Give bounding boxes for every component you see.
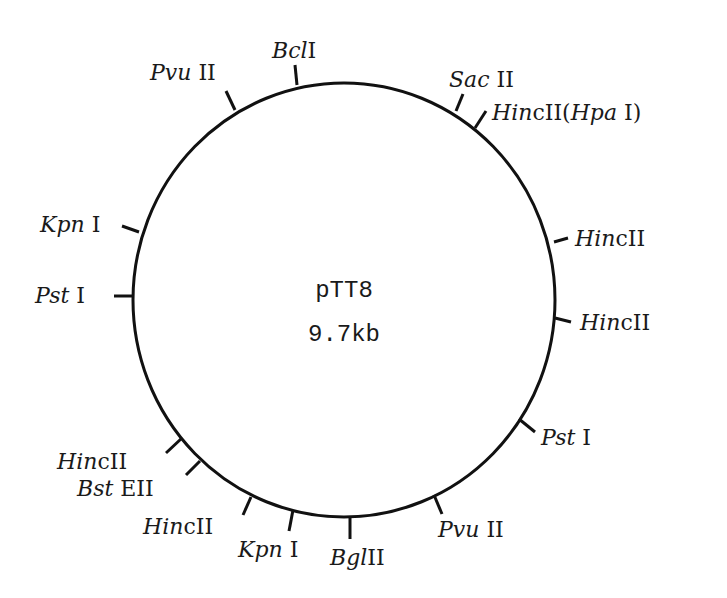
tick-hincii-left — [166, 438, 182, 453]
label-bst-eii: Bst EII — [76, 476, 154, 501]
tick-pst-i-right — [519, 419, 535, 432]
label-bgl-ii: BglII — [329, 545, 385, 570]
label-sac-ii: Sac II — [449, 67, 514, 92]
label-pst-i-left: Pst I — [34, 283, 85, 308]
label-hincii-hpai: HincII(Hpa I) — [491, 100, 641, 125]
tick-pvu-ii-top — [226, 91, 235, 110]
label-hincii-right-2: HincII — [579, 310, 650, 335]
tick-kpn-i-left — [122, 226, 139, 232]
tick-hincii-hpai — [475, 111, 486, 128]
label-pst-i-right: Pst I — [540, 425, 591, 450]
label-hincii-left: HincII — [56, 449, 127, 474]
plasmid-size: 9.7kb — [308, 321, 380, 348]
label-kpn-i-bottom: Kpn I — [237, 537, 298, 562]
tick-hincii-right-1 — [554, 238, 568, 242]
label-hincii-right-1: HincII — [574, 226, 645, 251]
tick-bcl-i — [295, 65, 297, 85]
tick-kpn-i-bottom — [289, 510, 293, 531]
plasmid-map: pTT8 9.7kb BclI Sac II HincII(Hpa I) Hin… — [0, 0, 727, 598]
plasmid-name: pTT8 — [315, 277, 373, 304]
tick-sac-ii — [456, 94, 463, 111]
tick-bst-eii — [186, 461, 200, 475]
label-pvu-ii-top: Pvu II — [149, 60, 216, 85]
label-kpn-i-left: Kpn I — [39, 212, 100, 237]
tick-hincii-right-2 — [555, 318, 571, 322]
label-pvu-ii-bottom: Pvu II — [437, 517, 504, 542]
label-bcl-i: BclI — [271, 38, 316, 63]
tick-pvu-ii-bottom — [434, 495, 442, 514]
tick-hincii-bottom — [243, 497, 251, 515]
label-hincii-bottom: HincII — [142, 514, 213, 539]
